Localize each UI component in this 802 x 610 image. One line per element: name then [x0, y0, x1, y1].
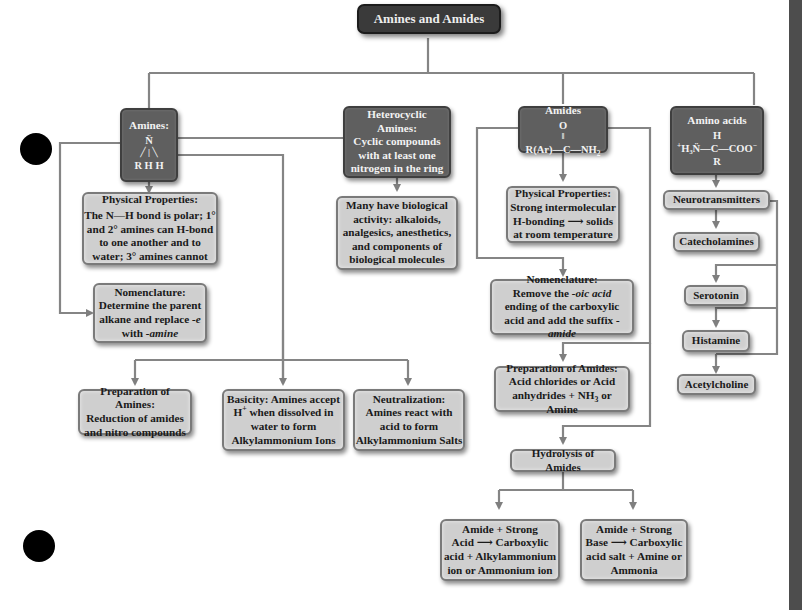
amines-label: Amines:	[129, 119, 169, 133]
catecholamines-label: Catecholamines	[679, 235, 754, 248]
acid-hydrolysis-box: Amide + Strong Acid ⟶ Carboxylic acid + …	[440, 519, 560, 581]
amide-formula: R(Ar)—C—NH2	[526, 144, 601, 155]
base-hydrolysis-line2: Base ⟶ Carboxylic	[586, 536, 683, 550]
amino-acid-formula: +H₃N̈—C—COO−	[677, 143, 757, 154]
amines-physical-properties-box: Physical Properties: The N—H bond is pol…	[82, 192, 218, 265]
text: anhydrides + NH	[512, 389, 594, 401]
concept-map: Amines and Amides Amines: N̈ ╱ | ╲ R H H…	[0, 0, 802, 610]
amines-basicity-box: Basicity: Amines accept H+ when dissolve…	[222, 389, 345, 451]
basicity-line3: water to form	[251, 420, 317, 434]
amines-nomenclature-box: Nomenclature: Determine the parent alkan…	[93, 283, 207, 343]
amide-double-bond: ‖	[562, 133, 565, 141]
catecholamines-box: Catecholamines	[673, 232, 760, 252]
serotonin-label: Serotonin	[693, 289, 739, 302]
amides-physical-line3: at room temperature	[513, 228, 613, 242]
heterocyclic-body: Cyclic compounds with at least one nitro…	[345, 135, 449, 176]
base-hydrolysis-line4: Ammonia	[610, 564, 657, 578]
title-box: Amines and Amides	[357, 4, 501, 34]
histamine-box: Histamine	[682, 330, 750, 352]
hydrolysis-box: Hydrolysis of Amides	[510, 449, 616, 472]
basicity-line4: Alkylammonium Ions	[231, 434, 335, 448]
amines-preparation-box: Preparation of Amines: Reduction of amid…	[78, 389, 192, 435]
amides-nomenclature-line1: Remove the -oic acid	[513, 287, 611, 301]
base-hydrolysis-line1: Amide + Strong	[596, 523, 672, 537]
amines-box: Amines: N̈ ╱ | ╲ R H H	[120, 108, 178, 182]
amides-physical-heading: Physical Properties:	[515, 187, 611, 201]
hydrolysis-label: Hydrolysis of Amides	[516, 447, 610, 474]
amides-nomenclature-line3: acid and add the suffix -amide	[492, 314, 632, 341]
amines-physical-body: The N—H bond is polar; 1° and 2° amines …	[84, 209, 216, 264]
amides-preparation-line1: Acid chlorides or Acid	[509, 375, 615, 389]
neurotransmitters-box: Neurotransmitters	[663, 190, 770, 210]
amides-physical-properties-box: Physical Properties: Strong intermolecul…	[506, 186, 620, 243]
italic-suffix: -oic acid	[572, 287, 611, 299]
text: H	[234, 406, 243, 418]
neutralization-heading: Neutralization:	[373, 393, 446, 407]
amine-structure-substituents: R H H	[134, 160, 163, 171]
neurotransmitters-label: Neurotransmitters	[673, 193, 760, 206]
heterocyclic-activity-box: Many have biological activity: alkaloids…	[336, 196, 458, 270]
amine-structure-bond: ╱ | ╲	[140, 148, 157, 157]
acid-hydrolysis-line2: Acid ⟶ Carboxylic	[452, 536, 549, 550]
amides-preparation-heading: Preparation of Amides:	[506, 362, 618, 376]
text: Remove the	[513, 287, 572, 299]
basicity-line2: H+ when dissolved in	[234, 406, 334, 420]
amines-nomenclature-heading: Nomenclature:	[114, 286, 185, 300]
neutralization-body: Amines react with acid to form Alkylammo…	[355, 406, 463, 447]
amines-neutralization-box: Neutralization: Amines react with acid t…	[353, 389, 465, 451]
title-text: Amines and Amides	[374, 11, 485, 27]
amine-structure-nitrogen: N̈	[145, 135, 153, 146]
text: acid and add the suffix	[504, 314, 616, 326]
binder-hole-bottom	[23, 530, 55, 562]
amides-label: Amides	[545, 104, 581, 118]
base-hydrolysis-line3: acid salt + Amine or	[586, 550, 682, 564]
page-edge-bar	[789, 0, 802, 610]
acid-hydrolysis-line4: ion or Ammonium ion	[447, 564, 552, 578]
amino-acid-alpha-h: H	[713, 130, 721, 141]
amides-preparation-box: Preparation of Amides: Acid chlorides or…	[494, 366, 630, 412]
heterocyclic-activity-text: Many have biological activity: alkaloids…	[338, 199, 456, 267]
amino-acids-label: Amino acids	[687, 114, 746, 128]
minus-charge: −	[753, 140, 757, 149]
subscript: 2	[597, 149, 601, 158]
acetylcholine-box: Acetylcholine	[677, 374, 756, 395]
text: —C—COO	[700, 143, 753, 154]
amino-acid-side-chain: R	[713, 156, 721, 167]
italic-suffix: -e	[192, 313, 201, 325]
amides-nomenclature-heading: Nomenclature:	[526, 273, 597, 287]
heterocyclic-amines-box: Heterocyclic Amines: Cyclic compounds wi…	[343, 106, 451, 178]
histamine-label: Histamine	[692, 334, 740, 347]
acid-hydrolysis-line1: Amide + Strong	[462, 523, 538, 537]
amides-preparation-line2: anhydrides + NH3 or Amine	[496, 389, 628, 416]
italic-suffix: -amine	[146, 327, 178, 339]
amides-box: Amides O ‖ R(Ar)—C—NH2	[518, 106, 608, 153]
heterocyclic-heading: Heterocyclic Amines:	[345, 108, 449, 135]
acetylcholine-label: Acetylcholine	[685, 378, 749, 391]
amines-preparation-body: Reduction of amides and nitro compounds	[80, 412, 190, 439]
text: R(Ar)—C—NH	[526, 144, 597, 155]
amide-carbonyl-oxygen: O	[559, 120, 567, 131]
acid-hydrolysis-line3: acid + Alkylammonium	[444, 550, 556, 564]
amides-nomenclature-box: Nomenclature: Remove the -oic acid endin…	[490, 279, 634, 335]
amides-physical-line2: H-bonding ⟶ solids	[513, 215, 613, 229]
text: H₃N̈	[681, 143, 700, 154]
serotonin-box: Serotonin	[684, 285, 748, 306]
text: with	[122, 327, 146, 339]
amines-physical-heading: Physical Properties:	[102, 193, 198, 207]
amides-nomenclature-line2: ending of the carboxylic	[505, 300, 620, 314]
amides-physical-line1: Strong intermolecular	[510, 201, 616, 215]
base-hydrolysis-box: Amide + Strong Base ⟶ Carboxylic acid sa…	[580, 519, 688, 581]
text: Determine the parent alkane and replace	[99, 299, 201, 325]
amines-preparation-heading: Preparation of Amines:	[80, 385, 190, 412]
binder-hole-top	[20, 133, 52, 165]
amines-nomenclature-body: Determine the parent alkane and replace …	[95, 299, 205, 340]
amino-acids-box: Amino acids H +H₃N̈—C—COO− R	[670, 106, 764, 175]
text: when dissolved in	[247, 406, 334, 418]
